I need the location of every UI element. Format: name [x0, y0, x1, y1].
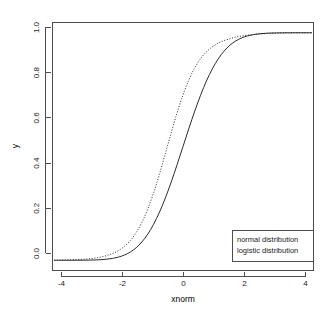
legend-entry-normal: normal distribution [237, 235, 298, 244]
data-curves [54, 33, 312, 261]
y-tick-label-0: 0.0 [32, 247, 41, 259]
y-tick-label-3: 0.6 [32, 112, 41, 124]
x-tick-label-4: 4 [303, 279, 308, 288]
y-tick-label-4: 0.8 [32, 67, 41, 79]
x-tick-marks [62, 272, 306, 277]
plot-canvas: 0.0 0.2 0.4 0.6 0.8 1.0 -4 -2 0 2 4 xnor… [0, 0, 327, 312]
legend[interactable]: normal distribution logistic distributio… [233, 231, 314, 262]
x-tick-label-2: 0 [181, 279, 186, 288]
y-tick-label-5: 1.0 [32, 21, 41, 33]
chart-svg: 0.0 0.2 0.4 0.6 0.8 1.0 -4 -2 0 2 4 xnor… [0, 0, 327, 312]
curve-normal-distribution [54, 33, 312, 261]
x-tick-label-0: -4 [58, 279, 66, 288]
y-axis-title: y [10, 143, 20, 148]
y-tick-labels: 0.0 0.2 0.4 0.6 0.8 1.0 [32, 21, 41, 259]
y-tick-label-2: 0.4 [32, 157, 41, 169]
y-tick-label-1: 0.2 [32, 202, 41, 214]
legend-entry-logistic: logistic distribution [237, 246, 298, 255]
x-tick-labels: -4 -2 0 2 4 [58, 279, 308, 288]
x-tick-label-1: -2 [119, 279, 127, 288]
x-axis-title: xnorm [171, 294, 195, 304]
y-tick-marks [46, 28, 51, 254]
x-tick-label-3: 2 [242, 279, 247, 288]
